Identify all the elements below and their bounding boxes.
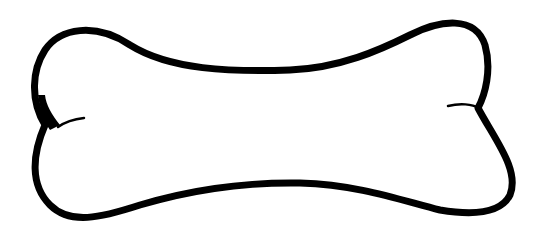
bone-icon: [0, 0, 543, 239]
bone-outline: [34, 23, 512, 217]
bone-drawing-canvas: [0, 0, 543, 239]
